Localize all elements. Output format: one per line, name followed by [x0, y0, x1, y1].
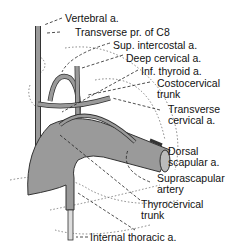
- label-costocervical: Costocervicaltrunk: [157, 78, 220, 100]
- label-vertebral: Vertebral a.: [65, 13, 119, 24]
- label-sup-intercostal: Sup. intercostal a.: [113, 40, 197, 51]
- label-inf-thyroid: Inf. thyroid a.: [141, 66, 202, 77]
- label-internal-thoracic: Internal thoracic a.: [90, 232, 176, 243]
- label-deep-cervical: Deep cervical a.: [126, 53, 201, 64]
- label-thyrocervical: Thyrocervicaltrunk: [141, 199, 203, 221]
- label-dorsal-scapular: Dorsalscapular a.: [168, 146, 219, 168]
- label-transverse-process: Transverse pr. of C8: [75, 27, 170, 38]
- label-transverse-cervical: Transversecervical a.: [168, 104, 220, 126]
- label-suprascapular: Suprascapularartery: [157, 173, 225, 195]
- anatomy-diagram: Vertebral a. Transverse pr. of C8 Sup. i…: [0, 0, 241, 252]
